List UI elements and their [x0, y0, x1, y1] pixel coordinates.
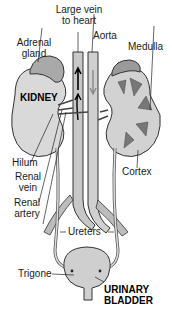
label-renal-vein: Renal vein	[13, 171, 43, 193]
label-adrenal-gland: Adrenal gland	[16, 37, 52, 59]
label-ureters: Ureters	[68, 226, 101, 237]
label-renal-artery: Renal artery	[11, 197, 43, 219]
right-ureter	[106, 148, 118, 268]
label-cortex: Cortex	[122, 166, 151, 177]
label-large-vein: Large vein to heart	[51, 4, 107, 26]
label-aorta: Aorta	[93, 30, 117, 41]
label-trigone: Trigone	[18, 268, 52, 279]
label-hilum: Hilum	[12, 157, 38, 168]
label-medulla: Medulla	[128, 41, 163, 52]
label-kidney: KIDNEY	[20, 92, 58, 103]
label-urinary-bladder: URINARY BLADDER	[104, 284, 153, 306]
